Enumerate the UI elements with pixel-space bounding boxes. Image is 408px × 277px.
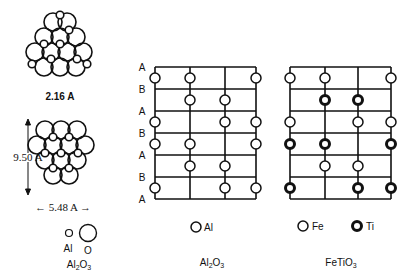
fe-site (320, 73, 330, 83)
layer-label: A (139, 150, 146, 161)
ti-site (387, 184, 396, 193)
fetio3-stacking-grid (285, 67, 396, 199)
al-site (185, 95, 195, 105)
close-packed-layer-top (26, 11, 92, 76)
fe-legend-label: Fe (312, 221, 324, 232)
al-site (251, 73, 261, 83)
aluminum-ion (40, 40, 48, 48)
aluminum-ion (65, 164, 73, 172)
al-site (150, 117, 160, 127)
fe-site (353, 117, 363, 127)
o-ion-legend-icon (80, 225, 97, 242)
al-site (150, 183, 160, 193)
aluminum-ion (83, 60, 91, 68)
al-legend-icon (191, 222, 201, 232)
al-site (150, 139, 160, 149)
width-dimension-label: ← 5.48 A → (35, 201, 91, 213)
ti-legend-label: Ti (366, 221, 374, 232)
ti-site (321, 140, 330, 149)
aluminum-ion (74, 149, 82, 157)
al-site (220, 183, 230, 193)
fe-site (386, 117, 396, 127)
al-legend-label: Al (64, 243, 73, 254)
middle-legend-label: Al (204, 222, 213, 233)
layer-label: A (139, 194, 146, 205)
layer-label: A (139, 62, 146, 73)
al-site (185, 161, 195, 171)
layer-label: B (139, 172, 146, 183)
layer-label: B (139, 128, 146, 139)
ti-site (321, 96, 330, 105)
aluminum-ion (56, 11, 64, 19)
al-site (251, 117, 261, 127)
al-site (185, 73, 195, 83)
fe-legend-icon (298, 221, 308, 231)
aluminum-ion (49, 133, 57, 141)
al-site (251, 139, 261, 149)
al-site (251, 183, 261, 193)
aluminum-ion (49, 164, 57, 172)
fe-site (353, 161, 363, 171)
aluminum-ion (28, 60, 36, 68)
aluminum-ion (56, 40, 64, 48)
left-formula: Al2O3 (67, 259, 92, 271)
ti-legend-icon (353, 222, 362, 231)
aluminum-ion (65, 133, 73, 141)
o-legend-label: O (84, 245, 92, 256)
al-site (150, 73, 160, 83)
al-site (220, 117, 230, 127)
fe-site (285, 117, 295, 127)
al-site (220, 95, 230, 105)
al2o3-stacking-grid (150, 67, 261, 199)
right-formula: FeTiO3 (325, 257, 356, 269)
al-ion-legend-icon (66, 230, 73, 237)
ti-site (354, 96, 363, 105)
fe-site (386, 73, 396, 83)
ti-site (387, 140, 396, 149)
middle-formula: Al2O3 (200, 257, 225, 269)
aluminum-ion (57, 149, 65, 157)
corundum-ilmenite-diagram: 2.16 A 9.50 A ← 5.48 A → Al O Al2O3 ABAB… (0, 0, 408, 277)
al-site (185, 139, 195, 149)
ti-site (286, 140, 295, 149)
layer-label: A (139, 106, 146, 117)
aluminum-ion (73, 55, 81, 63)
ti-site (354, 184, 363, 193)
aluminum-ion (47, 55, 55, 63)
layer-label: B (139, 84, 146, 95)
layer-labels: ABABABA (139, 62, 146, 205)
aluminum-ion (65, 26, 73, 34)
fe-site (320, 161, 330, 171)
al-site (220, 161, 230, 171)
ti-site (286, 184, 295, 193)
top-spacing-caption: 2.16 A (45, 91, 74, 102)
height-dimension-label: 9.50 A (13, 151, 42, 163)
fe-site (285, 73, 295, 83)
